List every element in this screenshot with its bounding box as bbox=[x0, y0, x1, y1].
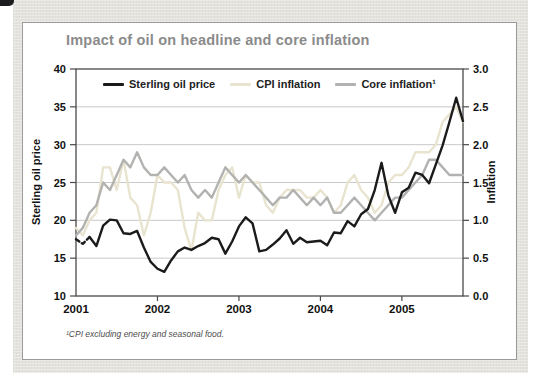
svg-text:2.0: 2.0 bbox=[473, 139, 488, 151]
chart-svg: Sterling oil price Inflation 40353025201… bbox=[23, 23, 518, 361]
core-line-swatch-icon bbox=[335, 83, 356, 86]
svg-text:1.5: 1.5 bbox=[473, 177, 488, 189]
svg-text:2005: 2005 bbox=[389, 303, 415, 315]
legend-item-sterling-oil-price: Sterling oil price bbox=[103, 78, 215, 90]
svg-text:1.0: 1.0 bbox=[473, 214, 488, 226]
svg-text:2.5: 2.5 bbox=[473, 101, 488, 113]
svg-text:2002: 2002 bbox=[145, 303, 171, 315]
legend-item-core-inflation: Core inflation¹ bbox=[335, 78, 436, 90]
chart-footnote: ¹CPI excluding energy and seasonal food. bbox=[66, 329, 224, 339]
left-axis-title: Sterling oil price bbox=[30, 139, 42, 225]
svg-text:35: 35 bbox=[54, 101, 66, 113]
legend-item-cpi-inflation: CPI inflation bbox=[230, 78, 320, 90]
svg-text:0.5: 0.5 bbox=[473, 252, 488, 264]
legend-label-core-inflation: Core inflation¹ bbox=[361, 78, 436, 90]
svg-text:15: 15 bbox=[54, 252, 66, 264]
svg-text:2004: 2004 bbox=[308, 303, 334, 315]
svg-text:30: 30 bbox=[54, 139, 66, 151]
svg-text:0.0: 0.0 bbox=[473, 290, 488, 302]
chart-card: Impact of oil on headline and core infla… bbox=[22, 22, 517, 360]
svg-text:25: 25 bbox=[54, 177, 66, 189]
svg-text:20: 20 bbox=[54, 214, 66, 226]
svg-text:10: 10 bbox=[54, 290, 66, 302]
svg-text:2001: 2001 bbox=[63, 303, 89, 315]
page-corner-mark bbox=[0, 0, 14, 6]
svg-text:40: 40 bbox=[54, 63, 66, 75]
cpi-line-swatch-icon bbox=[230, 83, 251, 86]
chart-plot-area: 403530252015103.02.52.01.51.00.50.020012… bbox=[54, 63, 489, 315]
svg-text:3.0: 3.0 bbox=[473, 63, 488, 75]
oil-line-swatch-icon bbox=[103, 83, 124, 86]
legend-label-cpi-inflation: CPI inflation bbox=[256, 78, 320, 90]
legend-label-sterling-oil-price: Sterling oil price bbox=[129, 78, 215, 90]
report-page-panel: Impact of oil on headline and core infla… bbox=[13, 0, 528, 373]
chart-legend: Sterling oil price CPI inflation Core in… bbox=[76, 78, 463, 90]
svg-text:2003: 2003 bbox=[226, 303, 252, 315]
